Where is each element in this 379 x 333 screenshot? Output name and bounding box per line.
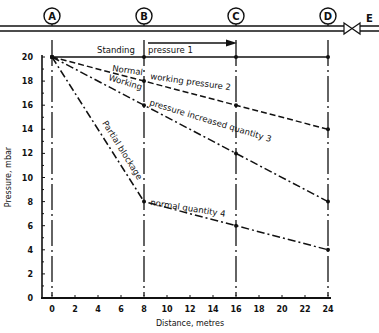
end-label-e: E xyxy=(366,13,373,24)
y-tick-label: 6 xyxy=(27,222,33,231)
data-point xyxy=(142,200,146,204)
x-tick-label: 18 xyxy=(253,305,265,314)
data-point xyxy=(50,55,54,59)
x-tick-label: 10 xyxy=(161,305,173,314)
y-tick-label: 16 xyxy=(22,101,34,110)
x-tick-label: 24 xyxy=(322,305,334,314)
y-tick-label: 4 xyxy=(27,246,33,255)
y-tick-label: 2 xyxy=(27,270,33,279)
y-axis-label: Pressure, mbar xyxy=(4,146,13,207)
x-tick-label: 6 xyxy=(118,305,124,314)
y-tick-label: 8 xyxy=(27,198,33,207)
station-marker-d: D xyxy=(320,8,336,26)
label-working-pressure-2: working pressure 2 xyxy=(150,71,232,92)
y-tick-label: 12 xyxy=(22,149,33,158)
data-point xyxy=(234,151,238,155)
y-tick-label: 0 xyxy=(27,294,33,303)
x-tick-label: 8 xyxy=(141,305,147,314)
data-point xyxy=(142,103,146,107)
station-marker-c: C xyxy=(228,8,244,26)
data-point xyxy=(326,200,330,204)
station-marker-a: A xyxy=(44,8,60,26)
y-tick-label: 14 xyxy=(22,125,34,134)
x-tick-label: 12 xyxy=(184,305,195,314)
x-axis-label: Distance, metres xyxy=(156,319,224,328)
data-point xyxy=(234,224,238,228)
label-partial-blockage: Partial blockage xyxy=(100,119,144,182)
data-point xyxy=(326,248,330,252)
x-tick-label: 2 xyxy=(72,305,78,314)
data-point xyxy=(234,55,238,59)
label-standing: Standing xyxy=(97,45,135,55)
x-tick-label: 22 xyxy=(299,305,310,314)
y-tick-label: 20 xyxy=(22,53,34,62)
x-tick-label: 16 xyxy=(230,305,242,314)
svg-text:D: D xyxy=(324,11,332,22)
data-point xyxy=(142,55,146,59)
pipeline: E ABCD xyxy=(0,8,379,34)
data-point xyxy=(326,127,330,131)
y-tick-label: 10 xyxy=(22,174,34,183)
x-tick-label: 4 xyxy=(95,305,101,314)
data-point xyxy=(234,103,238,107)
series-labels: Standing pressure 1 Normal working press… xyxy=(97,45,273,219)
label-pressure-increased-3: pressure increased quantity 3 xyxy=(148,97,272,144)
axes: 02468101214161820 024681012141618202224 … xyxy=(4,53,334,328)
label-normal-quantity-4: normal quantity 4 xyxy=(150,197,227,219)
data-point xyxy=(326,55,330,59)
svg-text:C: C xyxy=(232,11,239,22)
x-tick-label: 14 xyxy=(207,305,219,314)
x-tick-label: 0 xyxy=(49,305,55,314)
svg-text:A: A xyxy=(48,11,56,22)
station-marker-b: B xyxy=(136,8,152,26)
pressure-distance-diagram: E ABCD 02468101214161820 024681012141618… xyxy=(0,0,379,333)
x-tick-label: 20 xyxy=(276,305,288,314)
label-pressure-1: pressure 1 xyxy=(148,45,193,55)
svg-text:B: B xyxy=(140,11,148,22)
y-tick-label: 18 xyxy=(22,77,34,86)
